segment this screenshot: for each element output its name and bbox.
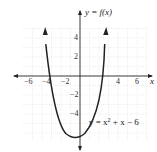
x-tick-label: −2: [61, 77, 70, 86]
y-tick-label: 2: [74, 52, 78, 61]
y-tick-label: 4: [74, 33, 78, 42]
y-axis-label: y = f(x): [84, 7, 112, 17]
x-axis-label: x: [149, 76, 154, 86]
function-graph: −6 −4 −2 4 6 x 4 2 −2 −4 y = f(x) y = x2…: [0, 0, 157, 152]
x-tick-label: −4: [42, 77, 51, 86]
eq-prefix: y = x: [89, 117, 108, 127]
equation-label: y = x2 + x − 6: [89, 117, 139, 127]
x-tick-label: 6: [135, 77, 139, 86]
x-tick-label: 4: [116, 77, 120, 86]
y-tick-label: −2: [70, 90, 79, 99]
eq-suffix: + x − 6: [111, 117, 140, 127]
x-tick-label: −6: [24, 77, 33, 86]
curve-arrow-left: [43, 27, 48, 35]
y-tick-label: −4: [70, 109, 79, 118]
curve-arrow-right: [103, 27, 108, 35]
